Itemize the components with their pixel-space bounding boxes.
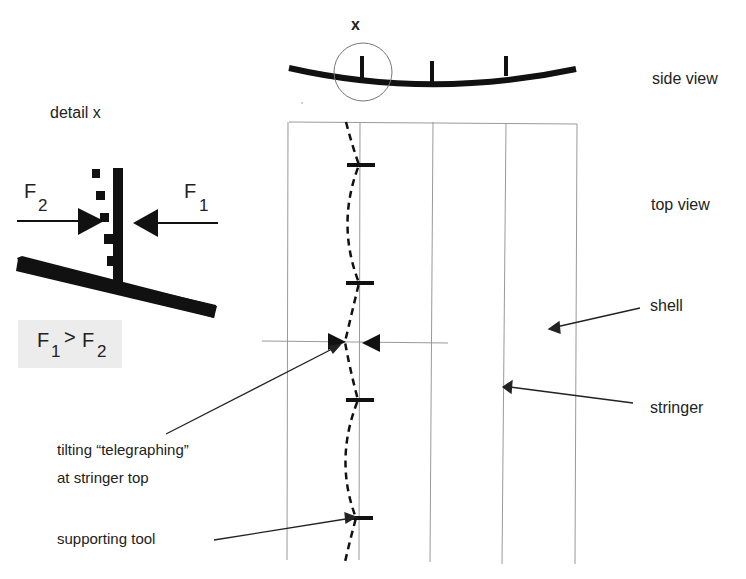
f1-subscript: 1 <box>199 196 208 216</box>
tilt-dot-4 <box>104 234 113 244</box>
ineq-operator: > <box>64 326 76 349</box>
force-inequality-box: F 1 > F 2 <box>18 320 122 368</box>
section-line <box>262 341 448 343</box>
f2-symbol: F <box>24 180 36 202</box>
side-view-label: side view <box>652 70 718 88</box>
leader-stringer-head <box>503 381 512 393</box>
f1-arrow-head <box>133 209 158 237</box>
leader-stringer <box>510 387 633 403</box>
ineq-left-symbol: F <box>37 329 49 352</box>
detail-marker-label: x <box>351 16 360 34</box>
stringer-line-1 <box>359 122 360 560</box>
tilt-dot-1 <box>92 169 100 178</box>
detail-stringer-web <box>113 168 123 286</box>
tool-tick-2 <box>346 281 374 285</box>
f2-arrow-head <box>78 208 104 235</box>
tilting-label-line1: tilting “telegraphing” <box>57 441 189 459</box>
tool-tick-1 <box>347 163 375 167</box>
stringer-side-1 <box>360 56 364 78</box>
tilt-dot-5 <box>107 256 115 266</box>
tilt-dot-2 <box>96 191 105 200</box>
ineq-right-symbol: F <box>82 329 94 352</box>
leader-tilting-head <box>329 345 340 353</box>
top-view-label: top view <box>651 196 710 214</box>
tilting-label-line2: at stringer top <box>57 469 149 487</box>
ineq-left-subscript: 1 <box>51 342 60 362</box>
tool-tick-3 <box>346 398 374 402</box>
f2-subscript: 2 <box>38 196 47 216</box>
side-view-panel <box>289 43 576 101</box>
leader-shell <box>556 308 640 327</box>
diagram-canvas <box>0 0 746 579</box>
stringer-line-3 <box>502 123 506 564</box>
leader-supporting-tool <box>214 518 352 540</box>
stringer-line-2 <box>430 122 433 562</box>
stringer-side-2 <box>430 61 434 82</box>
leader-tilting <box>166 346 338 434</box>
leader-shell-head <box>549 322 560 333</box>
detail-title: detail x <box>50 104 101 122</box>
speck <box>301 102 303 104</box>
f1-label: F 1 <box>184 180 196 203</box>
f2-label: F 2 <box>24 180 36 203</box>
stringer-label: stringer <box>650 399 703 417</box>
f1-symbol: F <box>184 180 196 202</box>
top-view-panel <box>262 122 577 564</box>
ineq-right-subscript: 2 <box>97 342 106 362</box>
stringer-side-3 <box>504 56 508 76</box>
panel-edge-right <box>575 124 577 564</box>
force-arrow-left <box>362 334 380 352</box>
shell-label: shell <box>650 297 683 315</box>
supporting-tool-label: supporting tool <box>57 530 155 548</box>
